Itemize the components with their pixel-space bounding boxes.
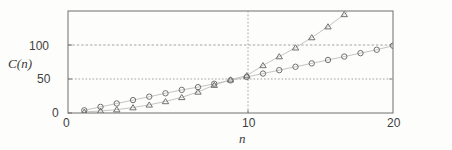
y-axis-label: C(n) [8, 56, 32, 72]
x-tick-label-20: 20 [387, 116, 400, 130]
x-tick-label-10: 10 [242, 116, 255, 130]
y-tick-label-100: 100 [29, 39, 49, 53]
y-tick-label-0: 0 [52, 106, 59, 120]
y-tick-label-50: 50 [37, 72, 50, 86]
gridlines-horizontal [68, 45, 393, 79]
x-tick-label-0: 0 [63, 116, 70, 130]
series-markers-triangle [81, 12, 347, 115]
data-series-layer [81, 0, 396, 114]
x-axis-label: n [239, 131, 246, 147]
figure-container: C(n) n 0 50 100 0 10 20 [0, 0, 452, 150]
plot-frame [68, 11, 393, 113]
